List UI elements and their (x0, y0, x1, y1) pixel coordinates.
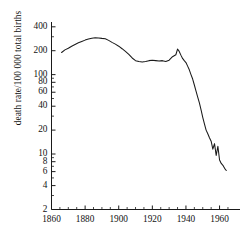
y-tick-marks (52, 27, 56, 210)
y-tick-label: 100 (34, 69, 48, 79)
x-tick-label: 1960 (200, 214, 240, 224)
y-tick-label: 200 (34, 45, 48, 55)
y-tick-label: 20 (38, 124, 47, 134)
y-tick-label: 400 (34, 21, 48, 31)
plot-area (0, 0, 247, 239)
y-tick-label: 10 (38, 148, 47, 158)
maternal-mortality-chart: death rate/100 000 total births 24681020… (0, 0, 247, 239)
y-tick-label: 4 (43, 180, 48, 190)
y-tick-label: 60 (38, 86, 47, 96)
data-series-line (62, 38, 227, 171)
y-tick-label: 40 (38, 100, 47, 110)
y-tick-label: 2 (43, 204, 48, 214)
y-tick-label: 6 (43, 166, 48, 176)
